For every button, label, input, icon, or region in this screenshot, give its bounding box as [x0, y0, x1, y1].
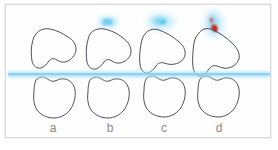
figure-root: a b c d	[0, 0, 278, 150]
panel-label-a: a	[43, 121, 63, 135]
lower-bone-outline-d	[198, 76, 240, 117]
horizontal-reference-band	[8, 72, 270, 78]
lower-bone-outline-a	[34, 77, 76, 118]
upper-bone-outline-b	[86, 29, 131, 69]
lower-bone-outline-b	[88, 77, 130, 118]
lower-bone-outline-c	[144, 76, 186, 117]
cyan-blob-above-b	[98, 16, 118, 28]
figure-canvas	[0, 0, 278, 150]
panel-label-b: b	[100, 121, 120, 135]
upper-bone-outline-c	[140, 29, 186, 73]
panel-label-c: c	[154, 121, 174, 135]
cyan-blob-above-c	[147, 14, 175, 30]
upper-bone-outline-a	[31, 29, 76, 68]
panel-label-d: d	[209, 121, 229, 135]
